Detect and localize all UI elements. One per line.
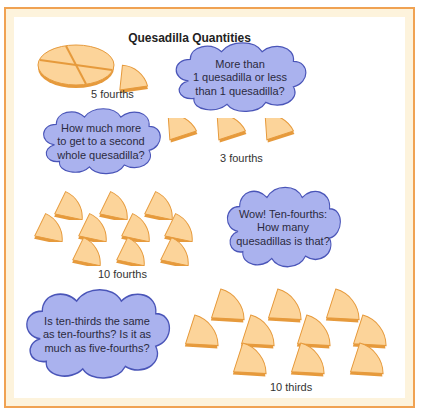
cloud-2-text: How much more to get to a second whole q… bbox=[57, 122, 144, 163]
cloud-1-text: More than 1 quesadilla or less than 1 qu… bbox=[193, 58, 287, 99]
quesadilla-fourth-piece bbox=[166, 118, 216, 150]
quesadilla-third-piece bbox=[182, 308, 232, 354]
label-10-thirds: 10 thirds bbox=[270, 381, 312, 393]
quesadilla-third-piece bbox=[288, 336, 338, 382]
quesadilla-third-piece bbox=[230, 336, 280, 382]
cloud-3-text: Wow! Ten-fourths: How many quesadillas i… bbox=[236, 208, 330, 249]
label-3-fourths: 3 fourths bbox=[220, 152, 263, 164]
quesadilla-fourth-piece bbox=[114, 232, 154, 270]
quesadilla-third-piece bbox=[347, 336, 397, 382]
thought-cloud-2: How much more to get to a second whole q… bbox=[38, 106, 164, 178]
thought-cloud-4: Is ten-thirds the same as ten-fourths? I… bbox=[20, 286, 174, 384]
label-10-fourths: 10 fourths bbox=[98, 268, 147, 280]
quesadilla-fourth-piece bbox=[215, 118, 265, 150]
quesadilla-fourth-piece bbox=[158, 232, 198, 270]
thought-cloud-3: Wow! Ten-fourths: How many quesadillas i… bbox=[222, 184, 344, 272]
cloud-4-text: Is ten-thirds the same as ten-fourths? I… bbox=[43, 315, 151, 356]
quesadilla-fourth-piece bbox=[263, 118, 313, 150]
quesadilla-fourth-piece bbox=[70, 232, 110, 270]
quesadilla-fourth-piece bbox=[32, 208, 72, 246]
label-5-fourths: 5 fourths bbox=[91, 88, 134, 100]
thought-cloud-1: More than 1 quesadilla or less than 1 qu… bbox=[170, 40, 310, 116]
